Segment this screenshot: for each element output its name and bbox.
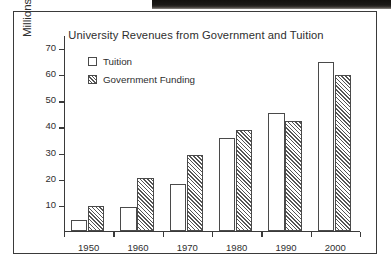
y-tick-label: 70	[45, 42, 56, 53]
y-tick-label: 30	[45, 147, 56, 158]
y-tick-mark	[59, 206, 64, 207]
y-tick-mark	[59, 127, 64, 128]
x-axis-label-1980: 1980	[226, 242, 247, 253]
bar-government-funding-1950	[88, 206, 105, 231]
bar-tuition-2000	[318, 62, 335, 231]
y-tick-mark	[59, 101, 64, 102]
y-tick-label: 60	[45, 68, 56, 79]
x-axis-label-2000: 2000	[325, 242, 346, 253]
bar-government-funding-1990	[285, 121, 302, 231]
y-tick-mark	[59, 180, 64, 181]
bar-government-funding-2000	[335, 75, 352, 230]
x-tick-mark-1980	[212, 232, 213, 237]
y-axis-line	[64, 36, 65, 232]
y-tick-label: 40	[45, 120, 56, 131]
y-tick-mark	[59, 75, 64, 76]
x-tick-mark-end	[360, 232, 361, 237]
bar-tuition-1950	[71, 220, 88, 230]
chart-frame: University Revenues from Government and …	[13, 11, 377, 254]
y-tick-mark	[59, 154, 64, 155]
bar-tuition-1990	[268, 113, 285, 231]
x-tick-mark-1990	[261, 232, 262, 237]
y-tick-mark	[59, 49, 64, 50]
legend-item-government-funding: Government Funding	[88, 74, 195, 85]
bar-government-funding-1970	[187, 155, 204, 231]
legend-label-government-funding: Government Funding	[103, 74, 195, 85]
y-tick-label: 50	[45, 94, 56, 105]
legend-swatch-hatched-icon	[88, 75, 97, 84]
chart-legend: Tuition Government Funding	[88, 56, 195, 92]
bar-tuition-1970	[170, 184, 187, 231]
x-tick-mark-2000	[311, 232, 312, 237]
x-axis-label-1950: 1950	[78, 242, 99, 253]
x-axis-label-1960: 1960	[127, 242, 148, 253]
bar-government-funding-1980	[236, 130, 253, 231]
legend-swatch-empty-icon	[88, 57, 97, 66]
x-axis-label-1990: 1990	[275, 242, 296, 253]
bar-tuition-1980	[219, 138, 236, 231]
x-tick-mark-1960	[113, 232, 114, 237]
bar-tuition-1960	[120, 207, 137, 231]
y-tick-label: 20	[45, 173, 56, 184]
legend-label-tuition: Tuition	[103, 56, 132, 67]
legend-item-tuition: Tuition	[88, 56, 195, 67]
x-tick-mark-1970	[163, 232, 164, 237]
x-tick-mark-1950	[64, 232, 65, 237]
x-axis-label-1970: 1970	[177, 242, 198, 253]
y-tick-label: 10	[45, 199, 56, 210]
y-axis-title: Millions of Dollars	[21, 0, 33, 62]
bar-government-funding-1960	[137, 178, 154, 230]
